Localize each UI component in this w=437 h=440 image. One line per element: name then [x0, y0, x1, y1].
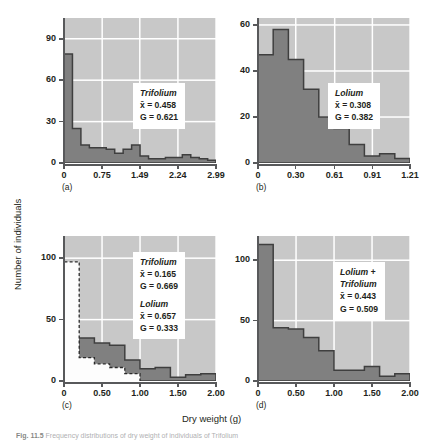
x-tick-c: [63, 383, 65, 387]
x-tick-d: [333, 383, 335, 387]
gridline-vertical: [215, 18, 216, 163]
x-tick-label-a: 0: [44, 170, 84, 180]
y-tick-label-b: 0: [218, 157, 250, 167]
x-tick-b: [295, 165, 297, 169]
x-tick-label-c: 0: [44, 388, 84, 398]
y-tick-label-a: 30: [24, 116, 56, 126]
gridline-vertical: [101, 18, 103, 163]
figure-caption-text: Frequency distributions of dry weight of…: [46, 432, 239, 439]
figure-caption-label: Fig. 11.5: [16, 432, 44, 439]
figure-histograms-dry-weight: Number of individuals 030609000.751.492.…: [0, 0, 437, 440]
x-tick-label-c: 1.00: [120, 388, 160, 398]
panel-letter-b: (b): [256, 182, 266, 192]
annotation-c-mean-2: x̄ = 0.657: [140, 311, 176, 321]
x-tick-a: [215, 165, 217, 169]
y-tick-label-a: 60: [24, 74, 56, 84]
panel-letter-a: (a): [62, 182, 72, 192]
y-tick-b: [253, 70, 257, 72]
panel-letter-c: (c): [62, 400, 72, 410]
y-tick-label-d: 50: [218, 315, 250, 325]
y-tick-label-c: 100: [24, 252, 56, 262]
x-tick-label-c: 0.50: [82, 388, 122, 398]
x-tick-c: [139, 383, 141, 387]
x-tick-a: [177, 165, 179, 169]
y-axis-c: [63, 236, 65, 384]
x-tick-c: [177, 383, 179, 387]
x-tick-label-d: 1.00: [314, 388, 354, 398]
axis-title-y: Number of individuals: [12, 199, 23, 290]
axis-title-x: Dry weight (g): [182, 413, 241, 424]
x-tick-label-c: 2.00: [196, 388, 236, 398]
y-tick-label-b: 20: [218, 111, 250, 121]
x-tick-label-d: 0: [238, 388, 278, 398]
x-tick-a: [139, 165, 141, 169]
x-tick-label-b: 0.30: [276, 170, 316, 180]
y-tick-a: [59, 38, 63, 40]
y-tick-a: [59, 162, 63, 164]
gridline-horizontal: [258, 24, 410, 26]
annotation-c-spacer: [140, 293, 178, 298]
annotation-b-mean: x̄ = 0.308: [335, 100, 371, 110]
annotation-c-species-2: Lolium: [140, 299, 168, 309]
annotation-b-species: Lolium: [335, 88, 363, 98]
x-tick-label-a: 1.49: [120, 170, 160, 180]
y-tick-label-b: 40: [218, 65, 250, 75]
y-tick-b: [253, 24, 257, 26]
annotation-c-gini-1: G = 0.669: [140, 281, 178, 291]
x-tick-b: [372, 165, 374, 169]
gridline-horizontal: [258, 259, 410, 261]
x-tick-label-a: 2.24: [158, 170, 198, 180]
annotation-a-mean: x̄ = 0.458: [140, 100, 176, 110]
y-tick-label-d: 100: [218, 254, 250, 264]
annotation-b: Lolium x̄ = 0.308 G = 0.382: [328, 83, 380, 129]
annotation-a-gini: G = 0.621: [140, 112, 178, 122]
y-axis-a: [63, 18, 65, 166]
x-tick-a: [63, 165, 65, 169]
annotation-c-mean-1: x̄ = 0.165: [140, 269, 176, 279]
x-tick-label-c: 1.50: [158, 388, 198, 398]
y-tick-d: [253, 380, 257, 382]
y-tick-label-d: 0: [218, 375, 250, 385]
x-tick-label-a: 2.99: [196, 170, 236, 180]
annotation-b-gini: G = 0.382: [335, 112, 373, 122]
annotation-d: Lolium + Trifolium x̄ = 0.443 G = 0.509: [333, 262, 385, 320]
panel-letter-d: (d): [256, 400, 266, 410]
annotation-c-gini-2: G = 0.333: [140, 323, 178, 333]
x-tick-label-b: 1.21: [390, 170, 430, 180]
annotation-d-gini: G = 0.509: [340, 304, 378, 314]
annotation-a-species: Trifolium: [140, 88, 177, 98]
x-tick-label-a: 0.75: [82, 170, 122, 180]
annotation-d-species-line2: Trifolium: [340, 279, 377, 289]
y-tick-label-b: 60: [218, 19, 250, 29]
x-tick-d: [295, 383, 297, 387]
x-tick-label-d: 0.50: [276, 388, 316, 398]
x-tick-label-d: 2.00: [390, 388, 430, 398]
figure-caption: Fig. 11.5 Frequency distributions of dry…: [16, 431, 238, 440]
gridline-vertical: [409, 236, 410, 381]
x-tick-a: [101, 165, 103, 169]
y-tick-c: [59, 380, 63, 382]
annotation-a: Trifolium x̄ = 0.458 G = 0.621: [133, 83, 185, 129]
y-tick-b: [253, 162, 257, 164]
x-tick-d: [371, 383, 373, 387]
x-tick-label-b: 0.91: [352, 170, 392, 180]
x-tick-b: [334, 165, 336, 169]
y-tick-a: [59, 121, 63, 123]
y-tick-c: [59, 319, 63, 321]
y-tick-d: [253, 259, 257, 261]
annotation-d-species-line1: Lolium +: [340, 267, 376, 277]
y-tick-label-c: 0: [24, 375, 56, 385]
y-axis-d: [257, 236, 259, 384]
y-tick-label-c: 50: [24, 314, 56, 324]
gridline-horizontal: [64, 79, 216, 81]
y-axis-b: [257, 18, 259, 166]
x-tick-label-d: 1.50: [352, 388, 392, 398]
x-tick-d: [409, 383, 411, 387]
x-tick-b: [409, 165, 411, 169]
y-tick-a: [59, 79, 63, 81]
x-tick-d: [257, 383, 259, 387]
y-tick-label-a: 90: [24, 33, 56, 43]
annotation-c: Trifolium x̄ = 0.165 G = 0.669 Lolium x̄…: [133, 252, 185, 339]
gridline-vertical: [409, 18, 410, 163]
x-tick-c: [215, 383, 217, 387]
